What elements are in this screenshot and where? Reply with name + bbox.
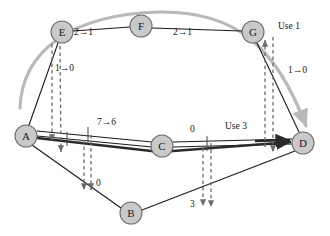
edge-label-fg: 2→1 [173, 28, 192, 38]
edge-label-gd: 1→0 [288, 66, 307, 76]
node-label-b: B [127, 207, 134, 219]
diagram-canvas: E F G A C D B [0, 0, 330, 236]
edge-g-d [257, 43, 299, 132]
node-label-d: D [299, 137, 307, 149]
node-label-f: F [138, 20, 144, 32]
edge-label-ac: 7→6 [97, 118, 116, 128]
edge-label-use-1: Use 1 [278, 22, 300, 32]
edge-label-ae: 1→0 [55, 64, 74, 74]
node-label-a: A [22, 130, 30, 142]
edge-a-b [32, 145, 121, 208]
edge-label-ab: 0 [96, 179, 101, 189]
edge-label-ef: 2→1 [74, 28, 93, 38]
edge-label-bd: 3 [190, 200, 195, 210]
cut-ae-right [60, 46, 61, 152]
edge-label-use-3: Use 3 [225, 122, 247, 132]
edge-label-cd: 0 [190, 125, 195, 135]
node-label-g: G [249, 26, 257, 38]
edge-c-d-arrow [255, 140, 290, 141]
graph-diagram: E F G A C D B 2→1 2→1 Use 1 1→0 1→0 7→6 … [0, 0, 330, 236]
edge-a-e [29, 43, 58, 125]
node-label-c: C [158, 140, 165, 152]
node-label-e: E [59, 26, 66, 38]
edge-b-d [142, 151, 295, 210]
edge-f-g [152, 28, 242, 31]
